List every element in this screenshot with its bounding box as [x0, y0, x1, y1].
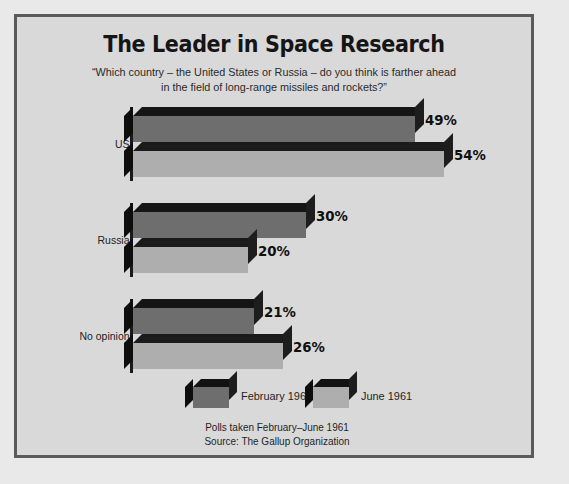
bar-top-face	[133, 299, 263, 308]
swatch-left-cap	[305, 379, 313, 408]
swatch-front-face	[193, 387, 229, 408]
chart-canvas: The Leader in Space Research “Which coun…	[17, 17, 531, 455]
bar-top-face	[133, 107, 424, 116]
plot-area: US 49% 5	[17, 103, 537, 373]
swatch-left-cap	[185, 379, 193, 408]
value-label-us-june-1961: 54%	[454, 147, 486, 163]
legend-label-february-1961: February 1961	[241, 390, 312, 402]
chart-page: The Leader in Space Research “Which coun…	[0, 0, 569, 484]
legend-swatch-june-1961	[313, 387, 349, 408]
subtitle-line-2: in the field of long-range missiles and …	[32, 80, 515, 95]
bar-us-june-1961	[133, 151, 444, 177]
bar-top-face	[133, 334, 292, 343]
bar-front-face	[133, 343, 283, 369]
bar-front-face	[133, 116, 415, 142]
category-label-us: US	[0, 138, 130, 150]
value-label-russia-february-1961: 30%	[316, 208, 348, 224]
bar-front-face	[133, 308, 254, 334]
value-label-us-february-1961: 49%	[425, 112, 457, 128]
source-line-organization: Source: The Gallup Organization	[30, 435, 524, 449]
bar-side-face	[415, 98, 424, 133]
swatch-side-face	[349, 371, 357, 400]
bar-us-february-1961	[133, 116, 415, 142]
bar-front-face	[133, 247, 248, 273]
bar-front-face	[133, 151, 444, 177]
chart-subtitle: “Which country – the United States or Ru…	[32, 65, 515, 95]
source-line-polls-taken: Polls taken February–June 1961	[30, 421, 524, 435]
bar-top-face	[133, 142, 453, 151]
value-label-no-opinion-february-1961: 21%	[264, 304, 296, 320]
bar-side-face	[306, 194, 315, 229]
swatch-front-face	[313, 387, 349, 408]
legend-swatch-february-1961	[193, 387, 229, 408]
bar-no-opinion-june-1961	[133, 343, 283, 369]
bar-no-opinion-february-1961	[133, 308, 254, 334]
value-label-no-opinion-june-1961: 26%	[293, 339, 325, 355]
chart-legend: February 1961 June 1961	[17, 379, 537, 413]
category-label-no-opinion: No opinion	[0, 330, 130, 342]
chart-frame: The Leader in Space Research “Which coun…	[14, 14, 534, 458]
swatch-side-face	[229, 371, 237, 400]
bar-side-face	[283, 325, 292, 360]
bar-front-face	[133, 212, 306, 238]
bar-side-face	[444, 133, 453, 168]
bar-side-face	[254, 290, 263, 325]
bar-russia-june-1961	[133, 247, 248, 273]
value-label-russia-june-1961: 20%	[258, 243, 290, 259]
chart-source-note: Polls taken February–June 1961 Source: T…	[30, 421, 524, 448]
bar-russia-february-1961	[133, 212, 306, 238]
chart-title: The Leader in Space Research	[43, 31, 506, 57]
subtitle-line-1: “Which country – the United States or Ru…	[32, 65, 515, 80]
category-label-russia: Russia	[0, 234, 130, 246]
bar-top-face	[133, 238, 257, 247]
bar-top-face	[133, 203, 315, 212]
legend-label-june-1961: June 1961	[361, 390, 412, 402]
